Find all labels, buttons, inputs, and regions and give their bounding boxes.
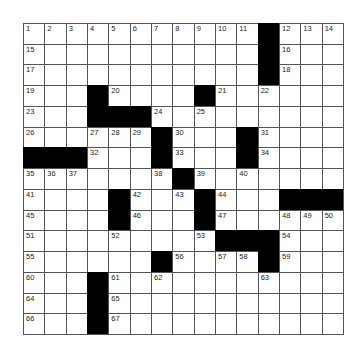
crossword-cell[interactable]	[236, 85, 257, 106]
crossword-cell[interactable]: 27	[87, 127, 108, 148]
crossword-cell[interactable]	[130, 147, 151, 168]
crossword-cell[interactable]	[66, 106, 87, 127]
crossword-cell[interactable]	[236, 189, 257, 210]
crossword-cell[interactable]	[322, 85, 343, 106]
crossword-cell[interactable]	[300, 85, 321, 106]
crossword-cell[interactable]	[322, 44, 343, 65]
crossword-cell[interactable]	[87, 44, 108, 65]
crossword-cell[interactable]: 33	[172, 147, 193, 168]
crossword-cell[interactable]	[215, 313, 236, 334]
crossword-cell[interactable]: 58	[236, 251, 257, 272]
crossword-cell[interactable]	[151, 210, 172, 231]
crossword-cell[interactable]	[300, 272, 321, 293]
crossword-cell[interactable]: 7	[151, 23, 172, 44]
crossword-cell[interactable]	[130, 272, 151, 293]
crossword-cell[interactable]	[108, 44, 129, 65]
crossword-cell[interactable]	[66, 189, 87, 210]
crossword-cell[interactable]	[215, 44, 236, 65]
crossword-cell[interactable]: 39	[194, 168, 215, 189]
crossword-cell[interactable]: 41	[23, 189, 44, 210]
crossword-cell[interactable]	[279, 272, 300, 293]
crossword-cell[interactable]: 15	[23, 44, 44, 65]
crossword-cell[interactable]: 54	[279, 230, 300, 251]
crossword-cell[interactable]: 35	[23, 168, 44, 189]
crossword-cell[interactable]	[130, 230, 151, 251]
crossword-cell[interactable]: 22	[258, 85, 279, 106]
crossword-cell[interactable]	[87, 64, 108, 85]
crossword-cell[interactable]: 62	[151, 272, 172, 293]
crossword-cell[interactable]: 5	[108, 23, 129, 44]
crossword-cell[interactable]	[236, 272, 257, 293]
crossword-cell[interactable]: 21	[215, 85, 236, 106]
crossword-cell[interactable]: 67	[108, 313, 129, 334]
crossword-cell[interactable]	[300, 127, 321, 148]
crossword-cell[interactable]	[66, 44, 87, 65]
crossword-cell[interactable]	[108, 147, 129, 168]
crossword-cell[interactable]	[194, 272, 215, 293]
crossword-cell[interactable]: 37	[66, 168, 87, 189]
crossword-cell[interactable]	[279, 85, 300, 106]
crossword-cell[interactable]: 8	[172, 23, 193, 44]
crossword-cell[interactable]	[300, 64, 321, 85]
crossword-cell[interactable]: 4	[87, 23, 108, 44]
crossword-cell[interactable]	[44, 189, 65, 210]
crossword-cell[interactable]	[322, 313, 343, 334]
crossword-cell[interactable]: 31	[258, 127, 279, 148]
crossword-cell[interactable]	[151, 64, 172, 85]
crossword-cell[interactable]	[322, 251, 343, 272]
crossword-cell[interactable]	[236, 210, 257, 231]
crossword-cell[interactable]	[322, 106, 343, 127]
crossword-cell[interactable]	[44, 230, 65, 251]
crossword-cell[interactable]	[194, 313, 215, 334]
crossword-cell[interactable]	[279, 127, 300, 148]
crossword-cell[interactable]	[300, 313, 321, 334]
crossword-cell[interactable]	[44, 64, 65, 85]
crossword-cell[interactable]	[66, 272, 87, 293]
crossword-cell[interactable]	[236, 293, 257, 314]
crossword-cell[interactable]	[236, 44, 257, 65]
crossword-cell[interactable]	[172, 272, 193, 293]
crossword-cell[interactable]: 38	[151, 168, 172, 189]
crossword-cell[interactable]	[130, 64, 151, 85]
crossword-cell[interactable]	[279, 313, 300, 334]
crossword-cell[interactable]	[300, 168, 321, 189]
crossword-cell[interactable]: 32	[87, 147, 108, 168]
crossword-cell[interactable]: 1	[23, 23, 44, 44]
crossword-cell[interactable]	[322, 230, 343, 251]
crossword-cell[interactable]	[194, 251, 215, 272]
crossword-cell[interactable]: 23	[23, 106, 44, 127]
crossword-cell[interactable]	[300, 147, 321, 168]
crossword-cell[interactable]: 34	[258, 147, 279, 168]
crossword-cell[interactable]: 16	[279, 44, 300, 65]
crossword-cell[interactable]	[258, 210, 279, 231]
crossword-cell[interactable]	[300, 230, 321, 251]
crossword-cell[interactable]	[130, 85, 151, 106]
crossword-cell[interactable]	[172, 85, 193, 106]
crossword-cell[interactable]: 48	[279, 210, 300, 231]
crossword-cell[interactable]	[66, 64, 87, 85]
crossword-cell[interactable]: 6	[130, 23, 151, 44]
crossword-cell[interactable]: 66	[23, 313, 44, 334]
crossword-cell[interactable]	[236, 313, 257, 334]
crossword-cell[interactable]	[172, 313, 193, 334]
crossword-cell[interactable]	[44, 44, 65, 65]
crossword-cell[interactable]	[279, 147, 300, 168]
crossword-cell[interactable]: 60	[23, 272, 44, 293]
crossword-cell[interactable]	[87, 189, 108, 210]
crossword-cell[interactable]	[44, 293, 65, 314]
crossword-cell[interactable]: 18	[279, 64, 300, 85]
crossword-cell[interactable]: 55	[23, 251, 44, 272]
crossword-cell[interactable]	[258, 189, 279, 210]
crossword-cell[interactable]: 2	[44, 23, 65, 44]
crossword-cell[interactable]: 52	[108, 230, 129, 251]
crossword-cell[interactable]	[322, 168, 343, 189]
crossword-cell[interactable]	[44, 85, 65, 106]
crossword-cell[interactable]	[215, 293, 236, 314]
crossword-cell[interactable]	[300, 44, 321, 65]
crossword-cell[interactable]: 61	[108, 272, 129, 293]
crossword-cell[interactable]: 64	[23, 293, 44, 314]
crossword-cell[interactable]	[130, 168, 151, 189]
crossword-cell[interactable]	[172, 64, 193, 85]
crossword-cell[interactable]	[300, 293, 321, 314]
crossword-cell[interactable]	[151, 85, 172, 106]
